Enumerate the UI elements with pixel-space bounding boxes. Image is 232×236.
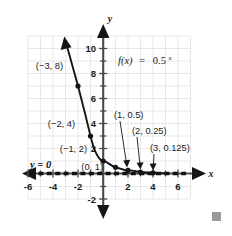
point-label: (−3, 8) (36, 61, 63, 71)
x-tick-label: 4 (150, 181, 156, 192)
y-tick-label: 6 (91, 93, 96, 104)
data-point (75, 83, 80, 88)
leader-line (120, 121, 127, 164)
point-label: (−2, 4) (48, 119, 75, 129)
y-axis-arrow-down (97, 205, 109, 219)
function-label-fx: f(x) (118, 55, 133, 67)
point-label: (2, 0.25) (132, 126, 167, 136)
data-point (113, 165, 118, 170)
point-label: (1, 0.5) (114, 110, 143, 120)
exponential-function-graph: -6 -4 -2 2 4 6 10 8 6 4 2 -2 x y y = 0 (0, 0, 232, 236)
x-tick-label: -2 (74, 181, 82, 192)
point-label: (−1, 2) (60, 144, 87, 154)
leader-arrowhead (123, 160, 130, 168)
y-axis-arrow-up (97, 24, 109, 38)
y-tick-label: 4 (91, 118, 97, 129)
leader-arrowhead (150, 163, 157, 170)
x-axis-label: x (208, 168, 214, 179)
y-axis-label: y (107, 13, 113, 24)
curve-arrowhead (61, 37, 72, 51)
function-label: f(x) = 0.5 x (118, 54, 173, 68)
y-tick-label: -2 (88, 194, 96, 205)
data-point (138, 169, 143, 174)
data-point (88, 133, 93, 138)
x-tick-label: 6 (175, 181, 180, 192)
asymptote-label: y = 0 (28, 159, 52, 170)
data-point (125, 168, 130, 173)
x-axis-arrow-right (192, 167, 206, 180)
function-label-base: 0.5 (153, 55, 166, 66)
x-tick-label: 2 (125, 181, 130, 192)
x-tick-label: -4 (49, 181, 58, 192)
function-label-exponent: x (168, 54, 173, 62)
function-label-equals: = (139, 55, 145, 66)
corner-marker-square (212, 212, 221, 221)
y-tick-label: 8 (91, 68, 96, 79)
data-point (150, 170, 155, 175)
point-label: (3, 0.125) (150, 143, 190, 153)
x-tick-label: -6 (24, 181, 32, 192)
point-label: (0, 1) (81, 162, 103, 172)
leader-arrowhead (137, 162, 144, 169)
y-tick-label: 10 (85, 43, 96, 54)
plot-svg: -6 -4 -2 2 4 6 10 8 6 4 2 -2 x y y = 0 (0, 0, 232, 236)
